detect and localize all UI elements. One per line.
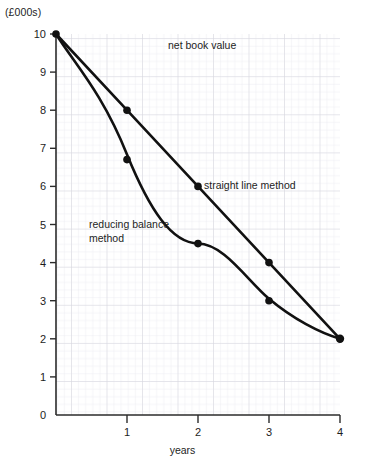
y-tick-3: 3 bbox=[24, 295, 46, 307]
y-tick-1: 1 bbox=[24, 371, 46, 383]
x-tick-2: 2 bbox=[187, 426, 209, 438]
y-tick-9: 9 bbox=[24, 66, 46, 78]
y-tick-2: 2 bbox=[24, 333, 46, 345]
y-axis-ticks bbox=[50, 34, 56, 377]
y-tick-7: 7 bbox=[24, 142, 46, 154]
series-label-reducing-balance-method: reducing balance method bbox=[89, 218, 169, 245]
chart-plot-area bbox=[0, 0, 365, 462]
y-tick-4: 4 bbox=[24, 257, 46, 269]
y-tick-5: 5 bbox=[24, 219, 46, 231]
x-tick-1: 1 bbox=[116, 426, 138, 438]
x-axis-title: years bbox=[0, 444, 365, 456]
series-label-straight-line-method: straight line method bbox=[204, 179, 296, 193]
net-book-value-chart: (£000s) bbox=[0, 0, 365, 462]
y-tick-0: 0 bbox=[24, 409, 46, 421]
chart-title-annotation: net book value bbox=[168, 39, 236, 53]
y-tick-10: 10 bbox=[24, 28, 46, 40]
x-tick-3: 3 bbox=[258, 426, 280, 438]
x-axis-ticks bbox=[127, 415, 340, 423]
y-tick-8: 8 bbox=[24, 104, 46, 116]
y-tick-6: 6 bbox=[24, 180, 46, 192]
x-tick-4: 4 bbox=[329, 426, 351, 438]
